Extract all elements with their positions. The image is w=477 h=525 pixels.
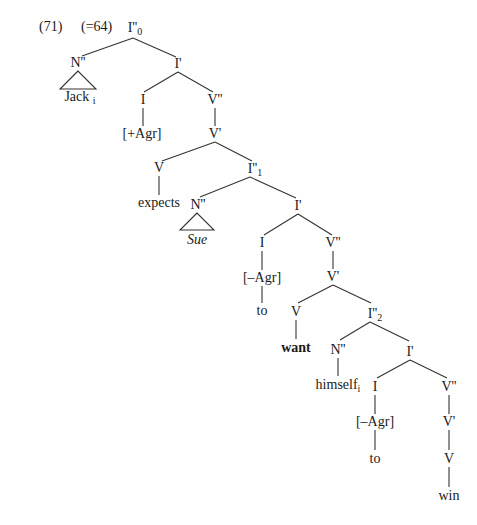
node-np-himself: N'' bbox=[330, 342, 345, 358]
feature-plus-agr: [+Agr] bbox=[123, 126, 162, 142]
word-win: win bbox=[439, 488, 460, 504]
node-ibar-1: I' bbox=[294, 198, 301, 214]
node-v-want: V bbox=[291, 304, 301, 320]
node-vp-2: V'' bbox=[441, 379, 456, 395]
feature-minus-agr-1: [–Agr] bbox=[243, 270, 281, 286]
feature-minus-agr-2: [–Agr] bbox=[356, 414, 394, 430]
word-himself: himselfi bbox=[316, 377, 361, 393]
node-vp-1: V'' bbox=[325, 235, 340, 251]
node-i-1: I bbox=[260, 235, 265, 251]
node-ibar-2: I' bbox=[406, 344, 413, 360]
node-v-win: V bbox=[444, 451, 454, 467]
tree-edges bbox=[0, 0, 477, 525]
leaf-sue: Sue bbox=[187, 232, 207, 248]
node-i-2: I bbox=[373, 379, 378, 395]
example-reference: (=64) bbox=[81, 19, 112, 35]
example-number: (71) bbox=[39, 19, 62, 35]
word-want: want bbox=[281, 340, 311, 356]
node-vbar-1: V' bbox=[327, 269, 340, 285]
node-vbar-top: V' bbox=[209, 126, 222, 142]
word-to-2: to bbox=[370, 451, 381, 467]
node-vbar-2: V' bbox=[443, 414, 456, 430]
leaf-jack: Jack i bbox=[64, 89, 95, 105]
node-np-sue: N'' bbox=[190, 197, 205, 213]
node-ip2: I''2 bbox=[368, 306, 383, 322]
node-ip1: I''1 bbox=[248, 161, 263, 177]
word-expects: expects bbox=[138, 195, 180, 211]
word-to-1: to bbox=[257, 303, 268, 319]
node-vp-top: V'' bbox=[207, 92, 222, 108]
node-v-expects: V bbox=[154, 160, 164, 176]
node-ibar-top: I' bbox=[174, 56, 181, 72]
node-np-jack: N'' bbox=[70, 55, 85, 71]
node-root-ip0: I''0 bbox=[128, 20, 143, 36]
node-i-top: I bbox=[141, 92, 146, 108]
